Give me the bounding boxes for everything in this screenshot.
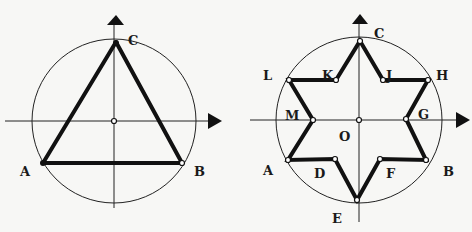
vertex-a [40,160,46,166]
label-g: G [418,107,429,122]
label-l: L [263,68,272,83]
label-e: E [332,211,342,226]
label-h: H [436,68,448,83]
arrow-right-icon [456,112,470,128]
vertex-b [180,161,185,166]
center-point [112,119,117,124]
label-a: A [19,164,31,179]
arrow-up-icon [107,15,124,25]
label-a: A [262,163,274,178]
triangle-figure: A B C [5,15,222,208]
diagram-canvas: A B C C J H G B F E [0,0,472,232]
label-m: M [285,108,299,123]
vertex-c [113,40,119,46]
label-f: F [386,166,396,181]
label-b: B [443,164,454,179]
hexagram-figure: C J H G B F E D A M L K O [250,14,470,226]
triangle-abc [43,42,182,163]
label-d: D [314,166,325,181]
label-o: O [339,129,350,144]
label-c: C [128,33,138,48]
arrow-right-icon [208,113,222,129]
label-j: J [385,68,392,83]
label-c: C [374,26,384,41]
label-b: B [194,164,205,179]
label-k: K [322,68,334,83]
arrow-up-icon [352,14,368,24]
